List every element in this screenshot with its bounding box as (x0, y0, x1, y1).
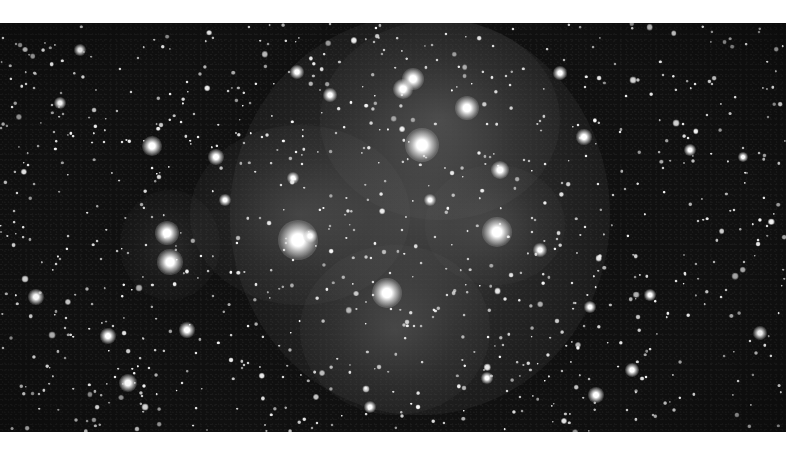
top-white-border (0, 0, 786, 23)
pleiades-photo (0, 23, 786, 432)
bottom-white-border (0, 432, 786, 453)
vignette (0, 23, 786, 432)
